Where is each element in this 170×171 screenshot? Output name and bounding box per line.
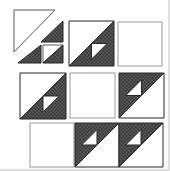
quilt-diagram-svg	[0, 0, 170, 171]
exploded-dark-triangle-lower	[18, 45, 41, 63]
exploded-dark-triangle-upper	[41, 21, 63, 42]
quilt-pattern-diagram	[0, 0, 170, 171]
block-r1-c3-plain-square	[118, 22, 162, 66]
block-r3-c1-plain-square	[30, 123, 74, 167]
block-r2-c2-plain-square	[70, 73, 115, 118]
